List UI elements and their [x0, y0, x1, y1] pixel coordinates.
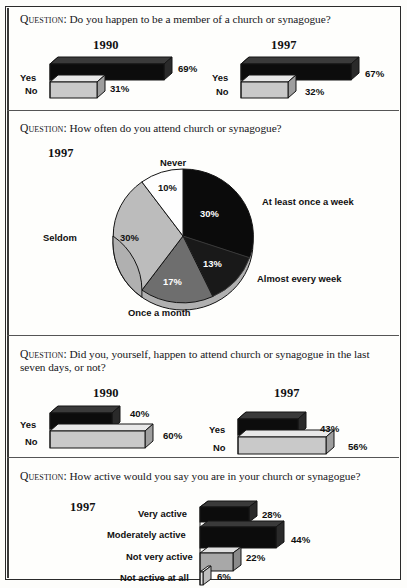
question-1-label: Question: — [20, 13, 67, 26]
pie-pct-once-a-month: 17% — [163, 276, 182, 287]
year-1997-seven-days: 1997 — [274, 386, 300, 401]
cat-label-membership-1990-no: No — [25, 85, 38, 96]
cat-label-seven-days-1997-yes: Yes — [209, 424, 225, 435]
cat-label-seven-days-1990-yes: Yes — [20, 419, 36, 430]
val-label-moderately-active: 44% — [291, 534, 310, 545]
cat-label-moderately-active: Moderately active — [107, 529, 186, 540]
val-label-seven-days-1997-yes: 43% — [320, 423, 339, 434]
pie-label-almost-every-week: Almost every week — [257, 273, 341, 284]
cat-label-membership-1997-no: No — [216, 86, 229, 97]
pie-label-seldom: Seldom — [43, 232, 77, 243]
pie-pct-almost-every-week: 13% — [203, 258, 222, 269]
survey-page: Question: Do you happen to be a member o… — [0, 0, 407, 588]
section-divider-3 — [7, 457, 399, 458]
question-3: Question: Did you, yourself, happen to a… — [20, 348, 372, 375]
question-4-label: Question: — [20, 470, 67, 483]
year-1997-frequency: 1997 — [48, 146, 74, 161]
pie-pct-never: 10% — [158, 182, 177, 193]
pie-pct-seldom: 30% — [120, 232, 139, 243]
question-1: Question: Do you happen to be a member o… — [20, 13, 380, 26]
cat-label-membership-1990-yes: Yes — [20, 72, 36, 83]
question-3-text: Did you, yourself, happen to attend chur… — [20, 348, 370, 373]
question-4-text: How active would you say you are in your… — [70, 470, 361, 482]
section-divider-2 — [7, 335, 399, 336]
question-1-text: Do you happen to be a member of a church… — [70, 13, 331, 25]
cat-label-seven-days-1997-no: No — [213, 442, 226, 453]
val-label-very-active: 28% — [262, 509, 281, 520]
year-1997-membership: 1997 — [271, 38, 297, 53]
year-1990-membership: 1990 — [93, 38, 119, 53]
val-label-seven-days-1990-yes: 40% — [130, 408, 149, 419]
val-label-seven-days-1990-no: 60% — [163, 430, 182, 441]
pie-pct-at-least-once-a-week: 30% — [200, 208, 219, 219]
cat-label-not-very-active: Not very active — [126, 551, 193, 562]
cat-label-membership-1997-yes: Yes — [212, 72, 228, 83]
pie-label-once-a-month: Once a month — [128, 307, 191, 318]
val-label-membership-1990-yes: 69% — [178, 63, 197, 74]
question-2-label: Question: — [20, 122, 67, 135]
cat-label-very-active: Very active — [138, 508, 187, 519]
pie-label-at-least-once-a-week: At least once a week — [262, 196, 354, 207]
val-label-seven-days-1997-no: 56% — [348, 441, 367, 452]
cat-label-seven-days-1990-no: No — [25, 436, 38, 447]
question-2-text: How often do you attend church or synago… — [70, 122, 282, 134]
val-label-membership-1997-no: 32% — [305, 86, 324, 97]
year-1990-seven-days: 1990 — [93, 386, 119, 401]
year-1997-activity: 1997 — [70, 500, 96, 515]
val-label-membership-1990-no: 31% — [110, 83, 129, 94]
question-3-label: Question: — [20, 348, 67, 361]
bar-group-seven-days-1990 — [42, 404, 202, 450]
cat-label-not-active-at-all: Not active at all — [120, 572, 189, 583]
val-label-not-active-at-all: 6% — [217, 571, 231, 582]
question-2: Question: How often do you attend church… — [20, 122, 380, 135]
section-divider-1 — [7, 110, 399, 111]
question-4: Question: How active would you say you a… — [20, 470, 384, 483]
pie-label-never: Never — [160, 157, 186, 168]
val-label-not-very-active: 22% — [246, 552, 265, 563]
val-label-membership-1997-yes: 67% — [365, 68, 384, 79]
